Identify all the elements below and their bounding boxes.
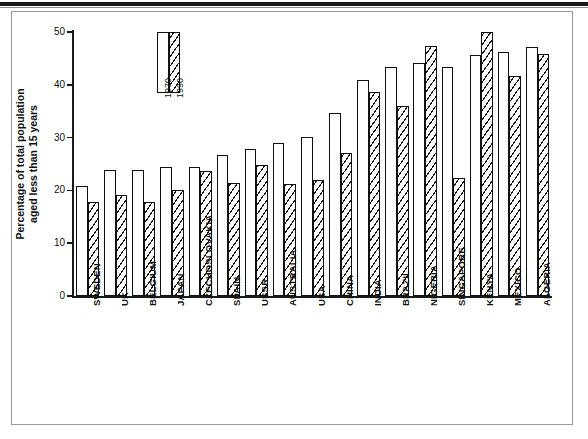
bar-ussr-1990 [256,165,268,296]
bar-spain-1970 [217,155,229,296]
bar-mexico-1990 [509,76,521,296]
bar-singapore-1970 [442,67,454,296]
bar-mexico-1970 [498,52,510,296]
x-label-australia: AUSTRALIA [288,249,298,306]
legend-label-1970: 1970 [164,78,173,98]
x-label-uk: UK [120,292,130,306]
y-tick-label: 20 [43,185,65,195]
x-label-ussr: USSR [260,279,270,306]
bar-belgium-1970 [132,170,144,296]
bar-uk-1990 [116,195,128,296]
bar-algeria-1990 [538,54,550,296]
x-label-usa: USA [317,285,327,306]
bar-china-1970 [329,113,341,296]
bar-algeria-1970 [526,47,538,296]
y-axis-title-line-2: aged less than 15 years [27,32,40,296]
x-label-japan: JAPAN [176,274,186,307]
y-tick-label: 30 [43,133,65,143]
top-rule-thick [0,2,588,6]
bar-nigeria-1990 [425,46,437,296]
chart-page: Percentage of total population aged less… [0,0,588,439]
y-tick-label: 40 [43,80,65,90]
y-axis-title-line-1: Percentage of total population [14,32,27,296]
x-label-mexico: MEXICO [513,267,523,306]
bar-australia-1970 [273,143,285,296]
y-tick-mark [67,190,72,192]
y-tick-label: 10 [43,238,65,248]
x-label-nigeria: NIGERIA [429,265,439,306]
bar-uk-1970 [104,170,116,296]
y-axis-title: Percentage of total population aged less… [14,32,40,296]
y-tick-mark [67,31,72,33]
legend: 1970 1990 [157,32,180,93]
x-label-algeria: ALGERIA [542,262,552,306]
x-label-china: CHINA [345,275,355,306]
y-tick-label: 0 [43,291,65,301]
y-tick-mark [67,295,72,297]
bar-brazil-1990 [397,106,409,296]
y-tick-label: 50 [43,27,65,37]
bar-japan-1970 [160,167,172,296]
bar-ussr-1970 [245,149,257,296]
x-label-singapore: SINGAPORE [457,247,467,306]
x-label-sweden: SWEDEN [92,263,102,306]
plot-area [73,32,551,296]
x-label-spain: SPAIN [232,277,242,306]
x-axis-line [72,296,552,298]
x-label-kenya: KENYA [485,273,495,306]
bar-usa-1990 [313,180,325,296]
x-label-czechoslovakia: CZECHOSLOVAKIA [204,215,214,306]
bar-sweden-1970 [76,186,88,296]
bar-kenya-1990 [481,32,493,296]
y-tick-mark [67,84,72,86]
top-rule-thin [0,7,588,8]
bar-czechoslovakia-1970 [189,167,201,296]
bar-kenya-1970 [470,55,482,296]
y-tick-mark [67,137,72,139]
x-label-belgium: BELGIUM [148,261,158,306]
y-tick-mark [67,242,72,244]
bar-nigeria-1970 [413,63,425,296]
x-label-india: INDIA [373,279,383,306]
bar-india-1990 [369,92,381,296]
bar-brazil-1970 [385,67,397,296]
bar-india-1970 [357,80,369,296]
bar-usa-1970 [301,137,313,296]
x-label-brazil: BRAZIL [401,270,411,306]
legend-label-1990: 1990 [176,78,185,98]
